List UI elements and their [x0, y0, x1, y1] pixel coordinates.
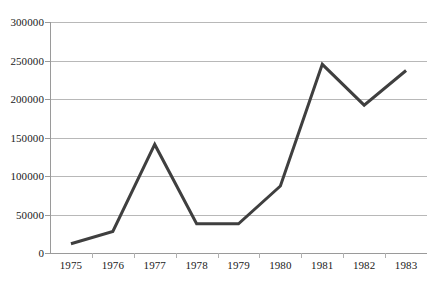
series-line-0	[71, 64, 406, 243]
series-layer	[0, 0, 438, 288]
line-chart: 300000 250000 200000 150000 100000 50000…	[0, 0, 438, 288]
